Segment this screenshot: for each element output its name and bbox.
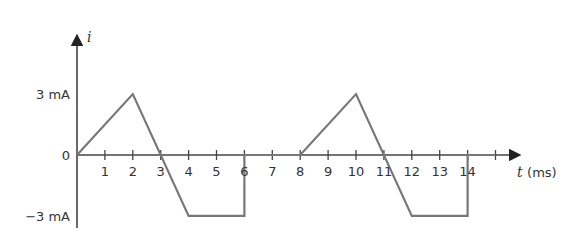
y-tick-label: 3 mA	[36, 87, 70, 102]
x-tick-label: 3	[157, 164, 165, 179]
y-tick-label: −3 mA	[25, 209, 70, 224]
x-tick-label: 5	[212, 164, 220, 179]
x-tick-label: 9	[324, 164, 332, 179]
x-tick-label: 14	[459, 164, 476, 179]
x-tick-label: 11	[376, 164, 393, 179]
y-tick-label: 0	[62, 148, 70, 163]
x-tick-label: 10	[348, 164, 365, 179]
axes	[77, 40, 515, 228]
y-axis-label: i	[87, 29, 91, 45]
axis-labels: 12345678910111213143 mA0−3 mAit (ms)	[25, 29, 557, 224]
x-tick-label: 7	[268, 164, 276, 179]
x-axis-label: t (ms)	[517, 164, 557, 180]
x-tick-label: 2	[129, 164, 137, 179]
x-tick-label: 6	[240, 164, 248, 179]
x-tick-label: 13	[431, 164, 448, 179]
x-tick-label: 4	[184, 164, 192, 179]
current-waveform-chart: 12345678910111213143 mA0−3 mAit (ms)	[0, 0, 569, 241]
x-tick-label: 12	[404, 164, 421, 179]
x-tick-label: 8	[296, 164, 304, 179]
x-tick-label: 1	[101, 164, 109, 179]
